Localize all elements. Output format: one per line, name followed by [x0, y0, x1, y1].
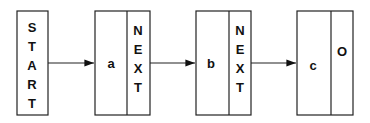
next-letter: E: [134, 42, 143, 57]
next-letter: X: [134, 61, 143, 76]
next-letter: E: [236, 42, 245, 57]
start-letter: S: [28, 20, 37, 35]
node-c-value: c: [309, 58, 316, 73]
next-letter: T: [134, 80, 142, 95]
null-pointer: O: [337, 44, 347, 59]
start-letter: T: [28, 96, 36, 111]
linked-list-diagram: S T A R T a N E X T b N E X T c O: [0, 0, 370, 123]
start-letter: A: [27, 58, 37, 73]
start-letter: R: [27, 77, 37, 92]
node-c-box: [297, 11, 353, 115]
start-letter: T: [28, 39, 36, 54]
next-letter: N: [133, 23, 142, 38]
node-a-value: a: [107, 56, 115, 71]
next-letter: N: [235, 23, 244, 38]
next-letter: X: [236, 61, 245, 76]
next-letter: T: [236, 80, 244, 95]
node-b-value: b: [207, 56, 215, 71]
